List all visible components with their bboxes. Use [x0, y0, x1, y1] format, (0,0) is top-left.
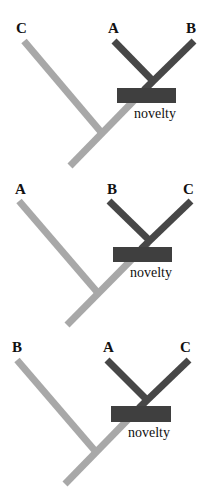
cladogram-panel-2: A B C novelty — [15, 181, 194, 325]
novelty-box — [113, 247, 172, 262]
novelty-label: novelty — [128, 425, 170, 440]
taxon-label-middle: B — [107, 181, 117, 197]
ingroup-branch-right — [144, 41, 194, 90]
taxon-label-left: B — [12, 339, 22, 355]
outgroup-branch — [17, 360, 96, 452]
taxon-label-left: A — [15, 181, 26, 197]
outgroup-branch — [19, 201, 98, 293]
taxon-label-right: C — [183, 181, 194, 197]
ingroup-branch-left — [107, 360, 146, 399]
novelty-box — [111, 406, 171, 422]
taxon-label-right: B — [186, 20, 196, 36]
taxon-label-middle: A — [108, 20, 119, 36]
cladogram-panel-3: B A C novelty — [12, 339, 191, 484]
taxon-label-left: C — [16, 20, 27, 36]
outgroup-branch — [24, 41, 101, 132]
ingroup-branch-left — [109, 201, 149, 240]
taxon-label-middle: A — [103, 339, 114, 355]
cladogram-figure: C A B novelty A B C novelty B A C novelt… — [0, 0, 206, 496]
novelty-label: novelty — [134, 106, 176, 121]
novelty-box — [117, 88, 176, 103]
cladogram-panel-1: C A B novelty — [16, 20, 196, 166]
ingroup-branch-right — [139, 360, 189, 408]
ingroup-branch-right — [141, 201, 191, 249]
ingroup-branch-left — [114, 41, 153, 81]
novelty-label: novelty — [130, 265, 172, 280]
taxon-label-right: C — [180, 339, 191, 355]
